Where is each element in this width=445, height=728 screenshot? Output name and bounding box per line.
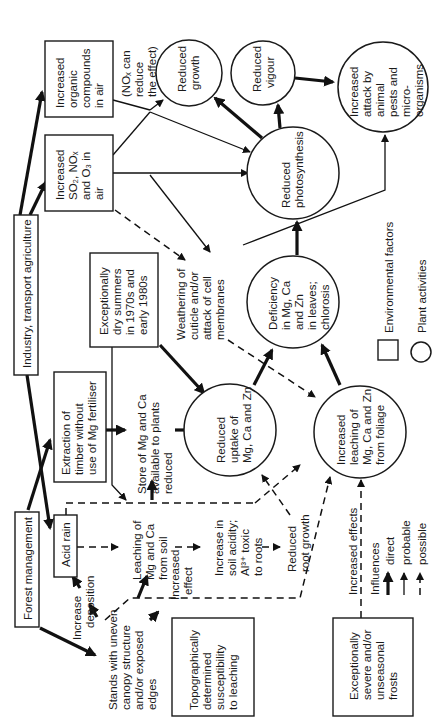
svg-text:Deficiency: Deficiency: [267, 277, 279, 330]
svg-text:Increased effects: Increased effects: [347, 507, 359, 595]
svg-text:susceptibility: susceptibility: [214, 645, 226, 710]
forest-decline-diagram: Forest management Industry, transport ag…: [0, 0, 445, 728]
svg-text:micro-: micro-: [400, 85, 412, 117]
legend-influences: Influences direct probable possible: [369, 520, 428, 595]
svg-text:probable: probable: [400, 520, 412, 565]
svg-text:Extraction of: Extraction of: [60, 410, 72, 475]
svg-text:Increased: Increased: [348, 66, 360, 117]
label-nox-note: (NOₓ can reduce the effect): [120, 46, 158, 97]
svg-text:Increase: Increase: [71, 596, 83, 640]
env-box-frosts: Exceptionally severe and/or unseasonal f…: [333, 618, 413, 716]
svg-text:severe and/or: severe and/or: [361, 630, 373, 700]
plant-circle-increased-attack: Increased attack by animal pests and mic…: [338, 42, 428, 132]
svg-text:Increased: Increased: [335, 414, 347, 465]
svg-text:Leaching of: Leaching of: [131, 520, 143, 580]
arrow-so2-to-weathering: [150, 175, 210, 252]
svg-text:reduced: reduced: [162, 452, 174, 494]
arrow-photosynthesis-to-vigour: [278, 105, 280, 128]
label-increased-effects: Increased effects: [347, 507, 359, 595]
svg-text:edges: edges: [146, 678, 158, 710]
arrow-root-growth-to-uptake: [262, 475, 290, 515]
label-soil-acidity: Increase in soil acidity; Al³⁺ toxic to …: [213, 520, 264, 576]
arrow-to-reduced-growth: [150, 100, 163, 110]
arrow-vigour-to-attack: [295, 78, 333, 82]
arrow-deposition-to-acid-rain: [73, 577, 80, 588]
line-acid-rain-top: [66, 503, 255, 515]
arrow-dry-summers-to-soil-leaching: [112, 347, 126, 500]
line-so2-x: [113, 112, 150, 155]
svg-text:the effect): the effect): [146, 46, 158, 97]
label-soil-leaching: Leaching of Mg and Ca from soil: [131, 520, 169, 580]
arrow-organic-to-photosynthesis: [150, 112, 250, 152]
svg-text:Reduced: Reduced: [251, 46, 263, 92]
svg-text:Reduced: Reduced: [280, 162, 292, 208]
svg-text:direct: direct: [384, 536, 396, 565]
svg-text:in Mg, Ca: in Mg, Ca: [280, 280, 292, 330]
svg-text:to leaching: to leaching: [227, 654, 239, 710]
env-box-acid-rain: Acid rain: [54, 515, 77, 577]
svg-text:Acid rain: Acid rain: [60, 522, 72, 567]
plant-circle-reduced-growth: Reduced growth: [156, 40, 222, 106]
label-weathering: Weathering of cuticle and/or attack of c…: [175, 268, 226, 340]
svg-text:Increase in: Increase in: [213, 520, 225, 576]
svg-text:Increased: Increased: [54, 149, 66, 200]
label-stands: Stands with uneven canopy structure and/…: [107, 610, 158, 710]
svg-text:soil acidity;: soil acidity;: [226, 520, 238, 576]
svg-text:Influences: Influences: [369, 542, 381, 595]
svg-text:and O₃ in: and O₃ in: [80, 152, 92, 200]
svg-text:root growth: root growth: [299, 514, 311, 572]
arrow-topographic-to-effect: [150, 612, 158, 620]
svg-text:and/or exposed: and/or exposed: [133, 631, 145, 710]
svg-text:animal: animal: [374, 83, 386, 117]
svg-text:Increased: Increased: [54, 57, 66, 108]
svg-text:effect: effect: [182, 566, 194, 595]
plant-circle-reduced-photosynthesis: Reduced photosynthesis: [247, 127, 339, 219]
svg-text:organisms: organisms: [413, 64, 425, 117]
label-store-reduced: Store of Mg and Ca available to plants r…: [136, 394, 174, 494]
svg-text:(NOₓ can: (NOₓ can: [120, 50, 132, 97]
svg-text:canopy structure: canopy structure: [120, 625, 132, 710]
svg-text:use of Mg fertiliser: use of Mg fertiliser: [86, 381, 98, 475]
env-box-dry-summers: Exceptionally dry summers in 1970s and e…: [90, 253, 158, 347]
svg-text:Reduced: Reduced: [176, 46, 188, 92]
svg-text:early 1980s: early 1980s: [137, 275, 149, 335]
arrow-industry-to-so2: [30, 182, 46, 215]
svg-text:Mg and Ca: Mg and Ca: [144, 523, 156, 580]
env-box-extraction: Extraction of timber without use of Mg f…: [54, 372, 106, 482]
svg-text:frosts: frosts: [387, 672, 399, 700]
svg-text:Reduced: Reduced: [286, 526, 298, 572]
svg-text:pests and: pests and: [387, 67, 399, 117]
svg-text:Topographically: Topographically: [188, 630, 200, 710]
svg-text:in air: in air: [93, 83, 105, 108]
svg-text:timber without: timber without: [73, 403, 85, 475]
env-box-forest-management: Forest management: [15, 512, 39, 627]
svg-text:in 1970s and: in 1970s and: [124, 269, 136, 335]
svg-text:available to plants: available to plants: [149, 402, 161, 494]
svg-text:attack by: attack by: [361, 71, 373, 117]
svg-text:attack of cell: attack of cell: [201, 276, 213, 340]
svg-text:vigour: vigour: [264, 57, 276, 88]
legend-circle-icon: [411, 342, 431, 362]
svg-text:membranes: membranes: [214, 279, 226, 340]
svg-text:photosynthesis: photosynthesis: [293, 131, 305, 208]
arrow-forest-to-stands: [40, 628, 95, 655]
svg-text:Exceptionally: Exceptionally: [348, 632, 360, 700]
plant-circle-foliage-leaching: Increased leaching of Mg, Ca and Zn from…: [314, 386, 406, 478]
svg-text:dry summers: dry summers: [111, 268, 123, 335]
svg-text:Forest management: Forest management: [22, 516, 34, 620]
plant-circle-reduced-vigour: Reduced vigour: [231, 41, 295, 105]
label-root-growth: Reduced root growth: [286, 514, 311, 572]
env-box-topographic: Topographically determined susceptibilit…: [172, 618, 254, 716]
svg-text:Industry, transport agricultur: Industry, transport agriculture: [21, 219, 33, 368]
svg-text:Reduced: Reduced: [215, 417, 227, 463]
arrow-foliage-to-deficiency: [322, 345, 340, 385]
svg-text:and Zn: and Zn: [293, 294, 305, 330]
svg-text:Al³⁺ toxic: Al³⁺ toxic: [239, 529, 251, 576]
arrow-acid-rain-to-foliage: [255, 465, 300, 503]
svg-text:in leaves;: in leaves;: [306, 281, 318, 330]
label-increase-deposition: Increase deposition: [71, 576, 96, 640]
svg-text:Store of Mg and Ca: Store of Mg and Ca: [136, 394, 148, 494]
arrow-dry-summers-to-uptake: [160, 345, 204, 393]
svg-text:Environmental factors: Environmental factors: [383, 222, 395, 333]
svg-text:air: air: [93, 187, 105, 200]
